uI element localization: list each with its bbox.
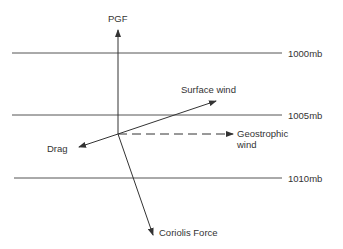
geostrophic-wind-label: Geostrophic wind (237, 128, 288, 150)
geostrophic-label-line2: wind (237, 139, 288, 150)
drag-arrow (79, 134, 118, 147)
coriolis-force-label: Coriolis Force (159, 227, 218, 238)
wind-force-diagram (0, 0, 343, 249)
pgf-label: PGF (108, 13, 128, 24)
surface-wind-label: Surface wind (181, 84, 236, 95)
surface-wind-arrow (118, 101, 216, 134)
drag-label: Drag (47, 143, 68, 154)
coriolis-force-arrow (118, 134, 153, 235)
isobar-label-1010mb: 1010mb (288, 173, 322, 184)
isobar-label-1000mb: 1000mb (288, 48, 322, 59)
geostrophic-label-line1: Geostrophic (237, 128, 288, 139)
isobar-label-1005mb: 1005mb (288, 110, 322, 121)
